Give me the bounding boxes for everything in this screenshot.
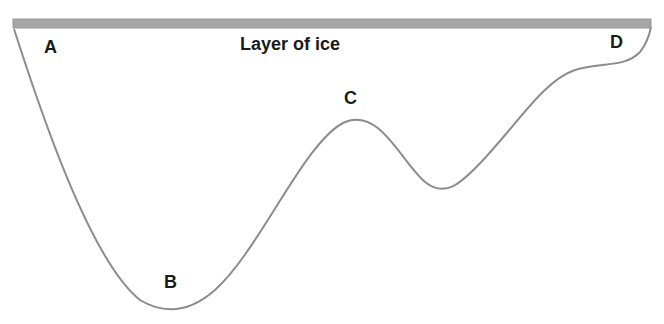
point-b-label: B [164, 273, 177, 291]
ice-track-diagram: Layer of ice A B C D [0, 0, 664, 324]
point-d-label: D [610, 33, 623, 51]
ice-layer-label: Layer of ice [240, 35, 340, 53]
track-curve [14, 27, 651, 309]
point-c-label: C [344, 89, 357, 107]
ice-layer-bar [13, 19, 651, 28]
point-a-label: A [44, 38, 57, 56]
